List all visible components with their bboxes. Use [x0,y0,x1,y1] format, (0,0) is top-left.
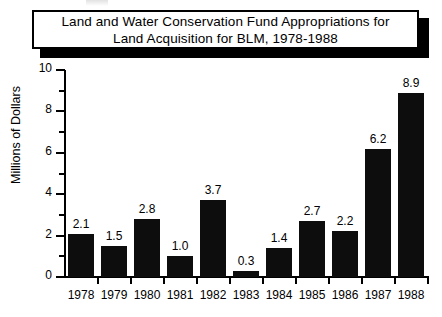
bar-value-label: 3.7 [193,184,233,197]
chart-figure: Land and Water Conservation Fund Appropr… [0,0,442,317]
x-axis-tick [163,278,165,284]
bar [200,200,226,277]
bar [233,271,259,277]
bar [101,246,127,277]
bar-value-label: 2.2 [325,215,365,228]
x-axis-tick [262,278,264,284]
x-axis-tick [328,278,330,284]
bars-layer: 2.119781.519792.819801.019813.719820.319… [0,0,442,317]
bar-value-label: 6.2 [358,133,398,146]
x-axis-tick [97,278,99,284]
x-axis-tick [427,278,429,284]
bar-value-label: 1.4 [259,232,299,245]
x-axis-tick [196,278,198,284]
x-axis-tick-label: 1988 [391,288,431,302]
x-axis-tick [295,278,297,284]
bar [134,219,160,277]
x-axis-tick [130,278,132,284]
bar-value-label: 8.9 [391,77,431,90]
x-axis-tick [229,278,231,284]
bar-value-label: 1.0 [160,240,200,253]
bar-value-label: 1.5 [94,230,134,243]
bar [68,234,94,277]
bar [299,221,325,277]
bar-value-label: 2.1 [61,218,101,231]
x-axis-tick [394,278,396,284]
bar [398,93,424,277]
bar [332,231,358,277]
x-axis-tick [361,278,363,284]
bar-value-label: 2.8 [127,203,167,216]
bar [266,248,292,277]
bar-value-label: 0.3 [226,255,266,268]
bar [365,149,391,277]
bar [167,256,193,277]
